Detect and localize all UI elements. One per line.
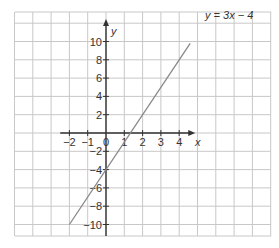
line-equation-label: y = 3x − 4 [204, 9, 253, 21]
y-tick-label: 8 [96, 54, 102, 66]
y-tick-label: −10 [83, 219, 102, 231]
y-tick-label: 10 [90, 36, 102, 48]
y-tick-label: 4 [96, 90, 102, 102]
y-axis-label: y [110, 25, 118, 37]
x-tick-label: 0 [103, 136, 109, 148]
x-tick-label: −2 [63, 136, 76, 148]
x-tick-label: 3 [158, 136, 164, 148]
y-tick-label: −2 [89, 145, 102, 157]
x-tick-label: 2 [140, 136, 146, 148]
graph-chart: −2−101234108642−2−4−6−8−10 x y y = 3x − … [0, 0, 279, 248]
line-series-extension [179, 43, 190, 59]
x-tick-label: 4 [176, 136, 182, 148]
y-tick-label: 6 [96, 72, 102, 84]
y-tick-label: −4 [89, 164, 102, 176]
y-tick-label: 2 [96, 109, 102, 121]
axes [60, 19, 195, 236]
x-axis-label: x [194, 136, 201, 148]
y-axis-arrow-icon [103, 19, 109, 26]
grid [15, 12, 272, 236]
y-tick-label: −8 [89, 200, 102, 212]
